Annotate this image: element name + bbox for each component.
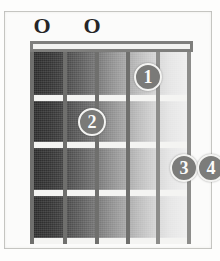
- string-6: [187, 41, 191, 244]
- fret-line-3: [33, 190, 190, 196]
- finger-marker-2: 2: [78, 108, 106, 136]
- fret-line-2: [33, 142, 190, 148]
- open-string-marker-row: O O: [0, 14, 220, 40]
- string-4: [126, 41, 130, 244]
- finger-marker-3: 3: [170, 154, 198, 182]
- string-3: [95, 41, 99, 244]
- string-2: [63, 41, 67, 244]
- fretboard: 1 2 3 4: [30, 41, 193, 244]
- finger-marker-1: 1: [134, 63, 162, 91]
- nut: [30, 41, 193, 52]
- fret-line-1: [33, 95, 190, 101]
- open-string-marker-1: O: [32, 14, 53, 38]
- fret-line-4: [33, 238, 190, 244]
- open-string-marker-2: O: [82, 14, 103, 38]
- finger-marker-4: 4: [197, 154, 220, 182]
- string-1: [30, 41, 34, 244]
